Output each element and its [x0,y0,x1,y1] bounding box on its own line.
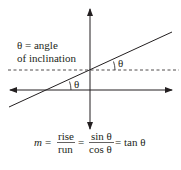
angle-label-lower: θ [74,78,79,90]
angle-arc-lower [70,82,72,91]
formula-run: run [58,143,73,155]
formula-sin: sin θ [91,130,112,142]
definition-line-2: of inclination [17,52,76,64]
formula-m: m [34,136,42,148]
angle-arc-upper [114,62,116,71]
angle-label-upper: θ [118,57,123,69]
formula-cos: cos θ [89,143,112,155]
formula-rise: rise [58,130,74,142]
formula-tail: = tan θ [115,136,145,148]
inclination-diagram: θ = angle of inclination θ θ m = rise ru… [0,0,181,170]
formula-eq1: = [45,136,51,148]
definition-line-1: θ = angle [17,39,58,51]
formula-eq2: = [78,136,84,148]
